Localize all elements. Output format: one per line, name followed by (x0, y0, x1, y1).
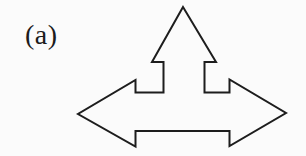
figure-panel: (a) (0, 0, 306, 156)
three-way-arrow-shape (78, 7, 286, 147)
arrow-figure (0, 0, 306, 156)
